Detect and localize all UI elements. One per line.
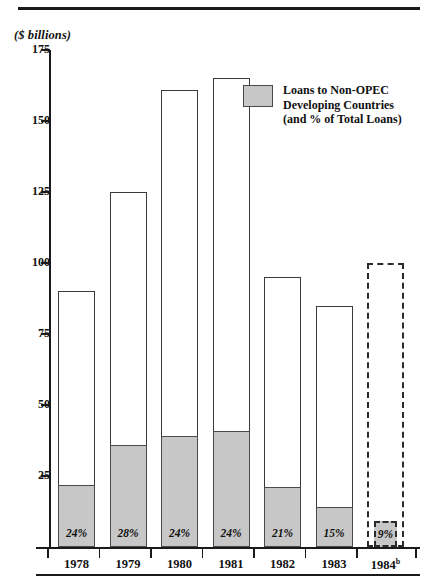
x-tick-mark — [150, 548, 152, 558]
y-tick-mark — [41, 475, 50, 477]
x-axis-label-1978: 1978 — [49, 558, 104, 571]
x-axis-baseline — [36, 547, 420, 549]
y-tick-100: 100 — [0, 262, 50, 263]
y-tick-mark — [41, 49, 50, 51]
x-tick-mark — [356, 548, 358, 558]
segment-percent-label: 21% — [272, 528, 293, 546]
y-tick-mark — [41, 262, 50, 264]
y-tick-mark — [41, 120, 50, 122]
y-tick-50: 50 — [0, 404, 50, 405]
segment-percent-label: 15% — [323, 528, 344, 546]
x-tick-mark — [305, 548, 307, 558]
x-axis-label-1981: 1981 — [204, 558, 259, 571]
bar-segment-1983: 15% — [316, 507, 353, 547]
chart-container: ($ billions) 175150125100755025 24%28%24… — [0, 0, 436, 588]
y-tick-25: 25 — [0, 475, 50, 476]
segment-percent-label: 24% — [220, 528, 241, 546]
legend-line-2: Developing Countries — [283, 98, 402, 113]
y-axis-unit-label: ($ billions) — [14, 28, 71, 43]
y-tick-mark — [41, 404, 50, 406]
x-axis-label-1982: 1982 — [255, 558, 310, 571]
x-axis-label-1979: 1979 — [101, 558, 156, 571]
x-axis-label-1984: 1984b — [358, 558, 413, 572]
x-tick-mark — [99, 548, 101, 558]
bar-1984 — [367, 263, 404, 547]
bottom-divider-rule — [36, 574, 420, 576]
bar-segment-1979: 28% — [110, 445, 147, 547]
x-tick-mark — [47, 548, 49, 558]
segment-percent-label: 9% — [378, 529, 393, 545]
bar-segment-1981: 24% — [213, 431, 250, 547]
segment-percent-label: 24% — [66, 528, 87, 546]
x-tick-mark — [415, 548, 417, 558]
y-tick-150: 150 — [0, 120, 50, 121]
x-axis-label-1980: 1980 — [152, 558, 207, 571]
bar-segment-1984: 9% — [374, 521, 397, 547]
top-divider-rule — [18, 7, 420, 10]
legend-text-block: Loans to Non-OPEC Developing Countries (… — [283, 83, 402, 127]
bar-segment-1982: 21% — [264, 487, 301, 547]
y-tick-mark — [41, 191, 50, 193]
bar-segment-1980: 24% — [161, 436, 198, 547]
y-tick-175: 175 — [0, 49, 50, 50]
legend-line-3: (and % of Total Loans) — [283, 112, 402, 127]
chart-legend: Loans to Non-OPEC Developing Countries (… — [243, 83, 402, 127]
legend-line-1: Loans to Non-OPEC — [283, 83, 402, 98]
x-tick-mark — [202, 548, 204, 558]
segment-percent-label: 24% — [169, 528, 190, 546]
legend-swatch-icon — [243, 85, 273, 107]
x-tick-mark — [253, 548, 255, 558]
y-tick-mark — [41, 333, 50, 335]
x-axis-label-1983: 1983 — [307, 558, 362, 571]
segment-percent-label: 28% — [117, 528, 138, 546]
y-tick-125: 125 — [0, 191, 50, 192]
bar-segment-1978: 24% — [58, 485, 95, 547]
y-tick-75: 75 — [0, 333, 50, 334]
